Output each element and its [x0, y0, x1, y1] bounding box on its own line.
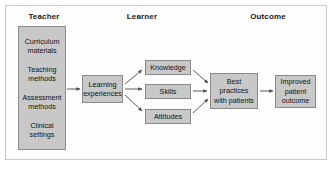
- node-knowledge[interactable]: Knowledge: [145, 60, 191, 75]
- item-clinical-settings: Clinical settings: [30, 121, 55, 140]
- node-teacher-inputs[interactable]: Curriculum materials Teaching methods As…: [18, 26, 66, 150]
- diagram-canvas: Teacher Learner Outcome Curriculum mater…: [0, 0, 335, 172]
- node-attitudes[interactable]: Attitudes: [145, 109, 191, 124]
- node-best-practices[interactable]: Best practices with patients: [210, 73, 258, 109]
- column-header-outcome: Outcome: [245, 12, 291, 21]
- node-improved-outcome[interactable]: Improved patient outcome: [275, 75, 316, 108]
- item-assessment-methods: Assessment methods: [22, 93, 61, 112]
- node-learning-experiences[interactable]: Learning experiences: [82, 75, 123, 103]
- item-teaching-methods: Teaching methods: [28, 65, 57, 84]
- item-curriculum-materials: Curriculum materials: [25, 37, 60, 56]
- column-header-teacher: Teacher: [22, 12, 66, 21]
- column-header-learner: Learner: [120, 12, 164, 21]
- node-skills[interactable]: Skills: [145, 84, 191, 99]
